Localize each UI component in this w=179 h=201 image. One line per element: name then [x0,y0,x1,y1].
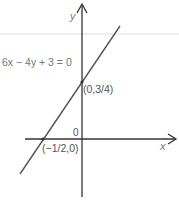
origin-label: 0 [73,127,79,138]
y-axis [77,4,87,197]
y-intercept-label: (0,3/4) [83,83,113,95]
x-axis-label: x [159,140,166,152]
y-axis-label: y [69,10,77,22]
equation-label: 6x − 4y + 3 = 0 [2,56,72,68]
coordinate-diagram: y x 6x − 4y + 3 = 0 (0,3/4) (−1/2,0) 0 [0,0,179,201]
x-intercept-point [41,137,44,140]
x-intercept-label: (−1/2,0) [42,142,78,154]
